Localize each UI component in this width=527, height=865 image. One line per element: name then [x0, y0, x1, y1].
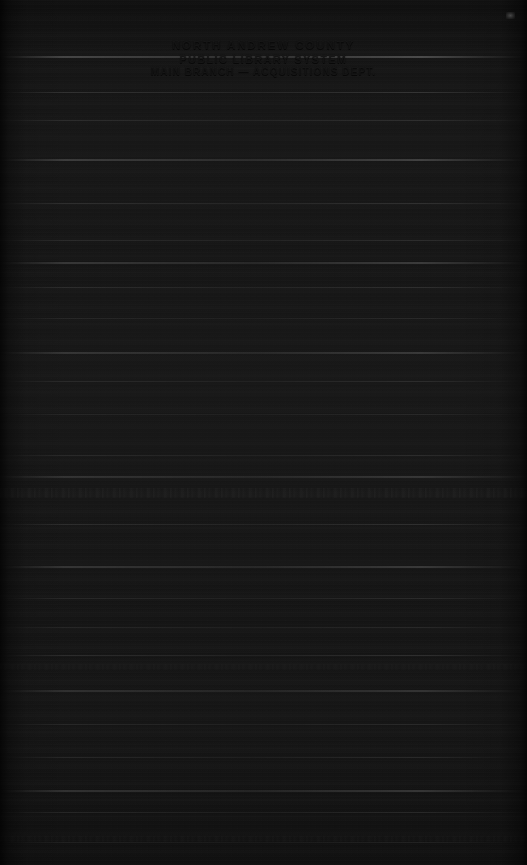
page-edge-vignette [0, 0, 527, 865]
scanned-document-page: NORTH ANDREW COUNTY PUBLIC LIBRARY SYSTE… [0, 0, 527, 865]
